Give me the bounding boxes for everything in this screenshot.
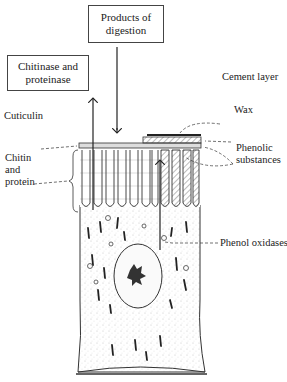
wax-layer [143,137,201,143]
label-chitin-and-protein: Chitin and protein [5,152,41,188]
chitinase-proteinase-text: Chitinase and proteinase [8,60,88,86]
label-phenol-oxidases: Phenol oxidases [220,237,287,249]
label-cement-layer: Cement layer [222,71,278,83]
chitinase-proteinase-box: Chitinase and proteinase [7,55,89,91]
label-phenolic-substances: Phenolic substances [236,142,286,166]
label-wax: Wax [234,104,253,116]
label-cuticulin: Cuticulin [4,110,43,122]
products-of-digestion-box: Products of digestion [88,5,164,43]
products-of-digestion-text: Products of digestion [89,11,163,37]
cuticulin-layer [79,143,201,148]
